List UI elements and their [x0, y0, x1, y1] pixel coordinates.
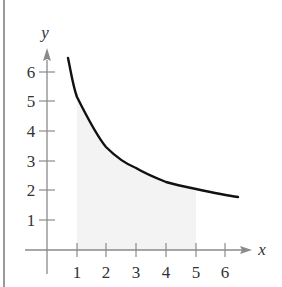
y-axis-label: y — [39, 23, 49, 42]
shaded-area — [77, 97, 196, 250]
x-tick-label: 4 — [162, 263, 171, 282]
y-tick-label: 2 — [27, 181, 36, 200]
y-axis-arrow-icon — [43, 48, 51, 61]
x-tick-label: 2 — [102, 263, 111, 282]
y-tick-label: 4 — [27, 122, 36, 141]
y-tick-label: 1 — [27, 211, 36, 230]
y-tick-label: 6 — [27, 63, 36, 82]
x-tick-label: 6 — [221, 263, 230, 282]
x-tick-label: 3 — [132, 263, 141, 282]
x-axis-label: x — [257, 240, 266, 259]
x-tick-label: 5 — [192, 263, 201, 282]
chart: 1 2 3 4 5 6 1 2 3 4 5 6 x y — [0, 0, 282, 287]
y-tick-label: 5 — [27, 92, 36, 111]
y-tick-label: 3 — [27, 152, 36, 171]
x-tick-label: 1 — [73, 263, 82, 282]
